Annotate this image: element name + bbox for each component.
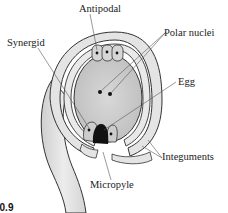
label-synergid: Synergid: [7, 38, 45, 49]
label-antipodal: Antipodal: [79, 4, 121, 15]
ovule-diagram: Antipodal Polar nuclei Synergid Egg Inte…: [0, 0, 228, 213]
egg-apparatus: [83, 122, 117, 144]
label-integuments: Integuments: [162, 152, 214, 163]
label-polar-nuclei: Polar nuclei: [164, 28, 214, 39]
label-egg: Egg: [178, 77, 195, 88]
figure-label: 20.9: [0, 203, 13, 213]
label-micropyle: Micropyle: [90, 180, 134, 191]
